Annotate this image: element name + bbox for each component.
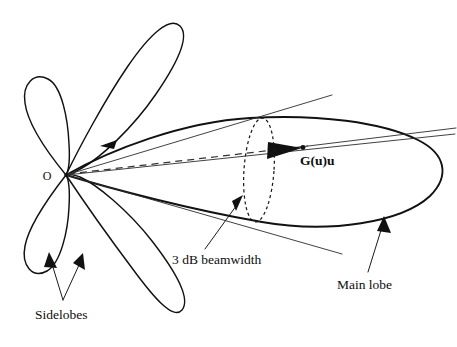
- gain-vector-label: G(u)u: [300, 153, 335, 168]
- origin-dot: [64, 173, 68, 177]
- origin-group: [64, 173, 68, 177]
- vector-origin-dot: [301, 145, 306, 150]
- origin-label: O: [43, 169, 52, 183]
- sidelobes-label: Sidelobes: [35, 307, 88, 322]
- beamwidth-label: 3 dB beamwidth: [172, 252, 261, 267]
- antenna-radiation-pattern-svg: O G(u)u 3 dB beamwidth Main lobe Sidelob…: [0, 0, 457, 347]
- main-lobe-label: Main lobe: [337, 277, 392, 292]
- antenna-pattern-figure: O G(u)u 3 dB beamwidth Main lobe Sidelob…: [0, 0, 457, 347]
